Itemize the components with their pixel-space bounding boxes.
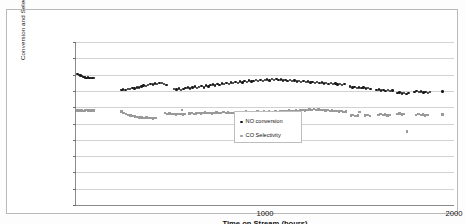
y-tick-mark [73,205,76,206]
data-point [154,117,156,119]
y-tick-mark [73,91,76,92]
y-gridline [76,58,454,59]
y-gridline [76,156,454,157]
data-point [389,114,391,116]
legend-marker-no-conversion [240,121,243,124]
x-axis-title: Time on Stream (hours) [76,219,454,224]
y-gridline [76,172,454,173]
y-tick-mark [73,140,76,141]
data-point [369,115,371,117]
legend-marker-co-selectivity [240,135,243,138]
x-tick-label: 2000 [446,209,463,218]
y-gridline [76,42,454,43]
y-gridline [76,75,454,76]
y-gridline [76,189,454,190]
y-tick-mark [73,156,76,157]
data-point [184,113,186,115]
data-point [93,77,95,79]
data-point [441,90,443,92]
y-axis-title: Conversion and Selectivity (% [19,0,26,60]
data-point [345,110,347,112]
data-point [358,111,360,113]
y-tick-mark [73,172,76,173]
legend-label-no-conversion: NO conversion [246,119,283,125]
y-tick-mark [73,107,76,108]
legend-label-co-selectivity: CO Selectivity [246,133,281,139]
data-point [165,84,167,86]
legend-entry-co-selectivity: CO Selectivity [240,133,281,139]
data-point [426,114,428,116]
data-point [407,92,409,94]
data-point [369,88,371,90]
data-point [406,130,408,132]
y-tick-mark [73,124,76,125]
data-point [181,109,183,111]
data-point [93,109,95,111]
data-point [403,113,405,115]
legend-entry-no-conversion: NO conversion [240,119,283,125]
y-gridline [76,107,454,108]
figure-frame: 0.0010.0020.0030.0040.0050.0060.0070.008… [6,9,458,214]
data-point [441,113,443,115]
y-tick-mark [73,58,76,59]
chart-legend: NO conversion CO Selectivity [234,111,302,143]
chart-screenshot: 0.0010.0020.0030.0040.0050.0060.0070.008… [0,0,465,224]
x-tick-label: 1000 [257,209,274,218]
data-point [357,114,359,116]
data-point [391,89,393,91]
data-point [343,83,345,85]
y-tick-mark [73,189,76,190]
y-tick-mark [73,42,76,43]
